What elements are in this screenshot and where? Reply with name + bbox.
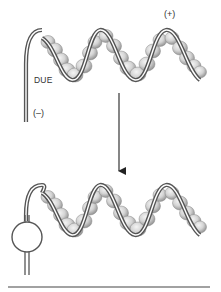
origin-unwinding-diagram bbox=[0, 0, 221, 292]
melted-due-bubble bbox=[12, 222, 42, 252]
bottom-panel bbox=[12, 185, 207, 276]
top-panel bbox=[26, 30, 207, 123]
minus-end-label: (–) bbox=[33, 109, 44, 118]
due-label: DUE bbox=[34, 76, 53, 85]
diagram-stage: (+) DUE (–) bbox=[0, 0, 221, 292]
plus-end-label: (+) bbox=[164, 10, 175, 19]
